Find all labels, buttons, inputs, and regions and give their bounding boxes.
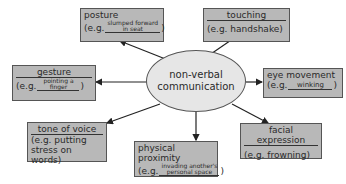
eg-prefix: (e.g. bbox=[267, 80, 287, 90]
node-title: facial expression bbox=[244, 125, 318, 146]
node-example-line2: stress on words) bbox=[31, 145, 103, 165]
center-node: non-verbal communication bbox=[146, 50, 246, 112]
eg-prefix: (e.g. bbox=[138, 166, 158, 176]
example-fill: winking bbox=[288, 81, 332, 90]
close-paren: ) bbox=[161, 23, 165, 33]
node-tone-of-voice: tone of voice (e.g. putting stress on wo… bbox=[27, 122, 107, 162]
example-fill: pointing a finger bbox=[37, 78, 79, 91]
node-title: physical proximity bbox=[138, 143, 214, 163]
node-posture: posture (e.g. slumped forward in seat ) bbox=[80, 8, 164, 42]
example-fill: slumped forward in seat bbox=[105, 20, 160, 33]
node-physical-proximity: physical proximity (e.g. invading anothe… bbox=[134, 141, 218, 177]
node-title: tone of voice bbox=[31, 124, 103, 135]
eg-prefix: (e.g. bbox=[16, 81, 36, 91]
node-touching: touching (e.g. handshake) bbox=[203, 8, 290, 42]
close-paren: ) bbox=[80, 81, 84, 91]
node-facial-expression: facial expression (e.g. frowning) bbox=[240, 123, 322, 159]
node-example: (e.g. handshake) bbox=[207, 24, 286, 34]
node-example: (e.g. frowning) bbox=[244, 150, 318, 160]
node-eye-movement: eye movement (e.g. winking ) bbox=[263, 68, 343, 98]
close-paren: ) bbox=[220, 166, 224, 176]
node-gesture: gesture (e.g. pointing a finger ) bbox=[12, 65, 96, 101]
node-title: touching bbox=[207, 10, 286, 21]
example-fill: invading another's personal space bbox=[159, 163, 219, 176]
center-label-line1: non-verbal bbox=[169, 69, 223, 81]
center-label-line2: communication bbox=[157, 81, 234, 93]
node-title: eye movement bbox=[267, 70, 339, 80]
eg-prefix: (e.g. bbox=[84, 23, 104, 33]
node-example-line1: (e.g. putting bbox=[31, 135, 103, 145]
close-paren: ) bbox=[333, 80, 337, 90]
